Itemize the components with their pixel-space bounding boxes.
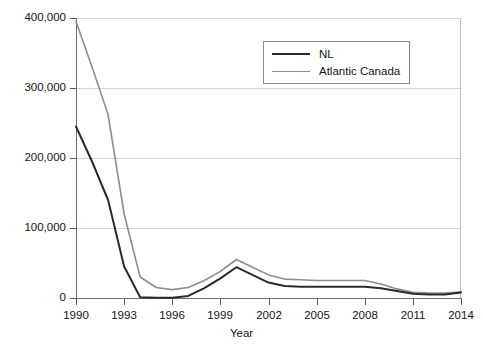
legend-label-nl: NL (319, 48, 334, 60)
legend-item-atlantic-canada: Atlantic Canada (272, 63, 400, 79)
legend-item-nl: NL (272, 46, 334, 62)
legend-swatch-nl-icon (272, 53, 310, 55)
series-layer (0, 0, 483, 350)
legend-swatch-atlantic-canada-icon (272, 71, 310, 72)
legend: NL Atlantic Canada (263, 41, 410, 84)
legend-label-atlantic-canada: Atlantic Canada (319, 65, 400, 77)
line-chart: 400,000 300,000 200,000 100,000 0 1990 1… (0, 0, 483, 350)
series-line-nl (76, 127, 461, 298)
